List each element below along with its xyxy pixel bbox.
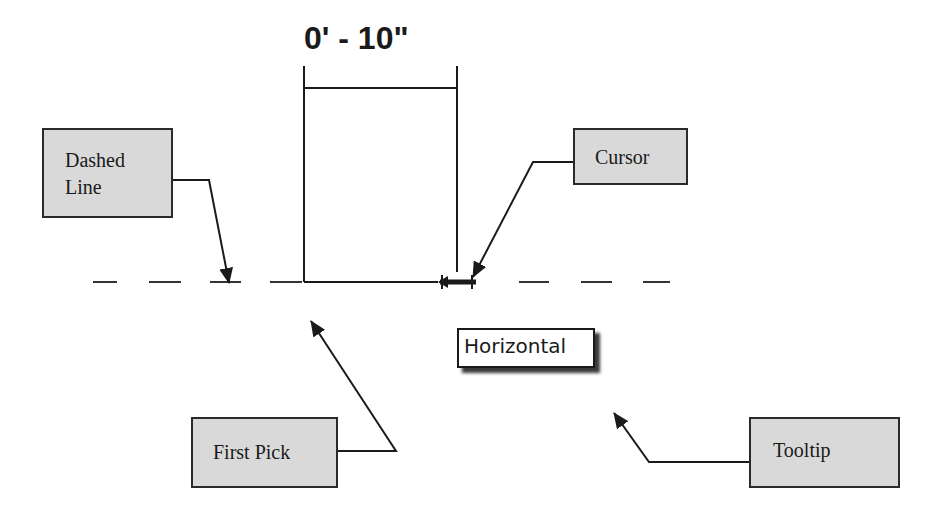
horizontal-tooltip: Horizontal: [457, 328, 595, 368]
dimension-value: 0' - 10": [304, 20, 409, 57]
callout-cursor-text: Cursor: [595, 144, 686, 171]
leader-dashed-line: [173, 180, 229, 283]
callout-dashed-line-text-2: Line: [65, 174, 171, 201]
callout-first-pick: First Pick: [191, 417, 338, 488]
callout-dashed-line-text-1: Dashed: [65, 147, 171, 174]
cursor-crosshair-icon: [438, 275, 476, 289]
callout-cursor: Cursor: [573, 128, 688, 185]
dimension-extension-lines: [304, 66, 457, 282]
callout-tooltip: Tooltip: [749, 417, 900, 488]
callout-dashed-line: Dashed Line: [42, 128, 173, 218]
callout-tooltip-text: Tooltip: [773, 437, 898, 464]
tooltip-label: Horizontal: [464, 334, 566, 358]
callout-first-pick-text: First Pick: [213, 439, 336, 466]
leader-cursor: [473, 162, 573, 277]
leader-tooltip: [614, 413, 749, 462]
